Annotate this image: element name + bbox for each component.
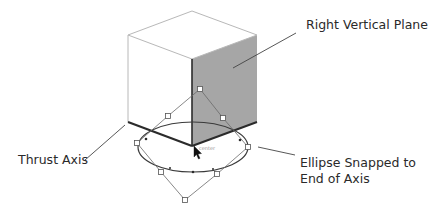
label-thrust-axis: Thrust Axis [18, 152, 88, 168]
snap-hint-text: center [199, 145, 216, 151]
label-ellipse-line2: End of Axis [300, 171, 416, 187]
label-ellipse-line1: Ellipse Snapped to [300, 155, 416, 171]
label-right-vertical-plane: Right Vertical Plane [306, 17, 428, 33]
label-ellipse-snapped: Ellipse Snapped to End of Axis [300, 155, 416, 187]
